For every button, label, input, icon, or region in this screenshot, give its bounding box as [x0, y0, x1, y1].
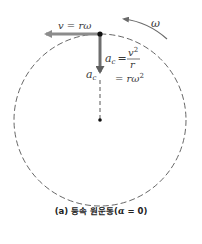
particle-dot [97, 31, 102, 36]
ac-formula-lhs: ac= [105, 52, 127, 66]
velocity-label: v = rω [58, 20, 91, 31]
ac-formula-rhs: = rω2 [115, 72, 144, 84]
ac-arrow-label: ac [86, 68, 97, 82]
omega-rotation-arrow [124, 19, 167, 39]
fraction-denominator: r [130, 59, 136, 70]
omega-label: ω [151, 17, 160, 30]
circular-motion-diagram: ω v = rω ac= v2 r = rω2 ac (a) 등속 원운동(α … [0, 0, 202, 244]
figure-caption: (a) 등속 원운동(α = 0) [55, 206, 148, 216]
fraction-numerator: v2 [128, 46, 138, 58]
center-dot [98, 118, 102, 122]
